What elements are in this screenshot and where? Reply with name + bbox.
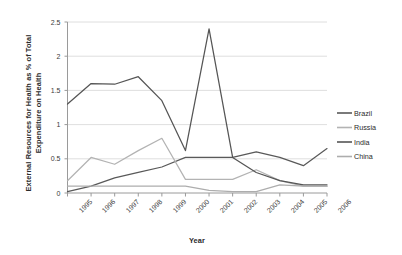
series-line-china [68, 185, 328, 192]
legend-label-brazil: Brazil [354, 110, 372, 117]
series-lines [68, 29, 328, 192]
y-tick-label: 2 [39, 53, 61, 60]
legend-swatches [337, 113, 352, 157]
x-axis-title: Year [67, 236, 327, 245]
y-tick-label: 1.5 [39, 87, 61, 94]
y-axis-title: External Resources for Health as % of To… [24, 18, 44, 208]
series-line-russia [68, 138, 328, 186]
axis-lines [65, 22, 328, 193]
legend-label-russia: Russia [354, 124, 376, 131]
line-chart: External Resources for Health as % of To… [0, 0, 402, 255]
y-tick-label: 0.5 [39, 155, 61, 162]
legend-label-china: China [354, 153, 373, 160]
x-axis-ticks [68, 193, 328, 197]
y-tick-label: 2.5 [39, 19, 61, 26]
y-tick-label: 0 [39, 190, 61, 197]
legend-label-india: India [354, 139, 370, 146]
y-tick-label: 1 [39, 121, 61, 128]
